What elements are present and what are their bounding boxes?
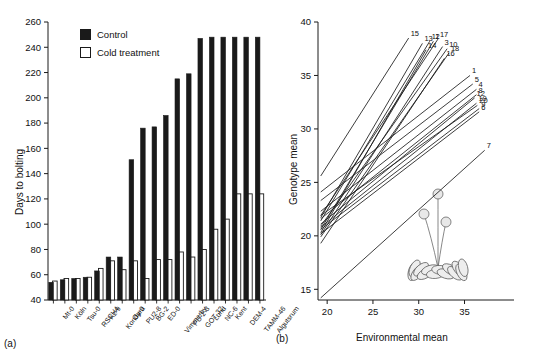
panel-b-x-axis-title: Environmental mean [356,332,448,343]
panel-a-label: (a) [4,338,16,349]
bar-control [95,271,100,300]
panel-b-x-tick: 20 [322,306,333,317]
panel-b-x-tick: 30 [413,306,424,317]
bar-control [244,37,249,300]
reaction-norm-line-label: 14 [428,41,436,50]
panel-b-plot-area: 15202530354020253035 [270,0,536,360]
legend-item-cold-treatment: Cold treatment [80,47,159,58]
panel-b-x-tick: 35 [459,306,470,317]
panel-a-y-tick: 240 [25,42,41,53]
legend-item-control: Control [80,29,128,40]
panel-a-y-tick: 100 [25,219,41,230]
reaction-norm-line-label: 20 [479,96,487,105]
reaction-norm-line [321,95,477,219]
bar-control [209,37,214,300]
legend-label-control: Control [97,29,128,40]
panel-b-y-tick: 35 [300,70,311,81]
bar-control [106,257,111,300]
bar-control [186,74,191,300]
panel-b-y-tick: 20 [300,230,311,241]
reaction-norm-line-label: 15 [411,29,419,38]
panel-b-reaction-norms: Genotype mean Environmental mean 1520253… [270,0,536,360]
bar-control [118,257,123,300]
legend-label-cold-treatment: Cold treatment [97,47,159,58]
panel-a-y-tick: 120 [25,193,41,204]
reaction-norm-line [321,105,478,215]
panel-b-y-axis-title: Genotype mean [288,134,299,205]
panel-b-x-tick: 25 [368,306,379,317]
reaction-norm-line [321,75,470,192]
panel-a-y-tick: 200 [25,92,41,103]
panel-a-y-tick: 40 [30,294,41,305]
bar-control [175,79,180,300]
panel-a-y-tick: 260 [25,16,41,27]
panel-a-y-axis-title: Days to bolting [14,149,25,215]
bar-control [164,116,169,300]
bar-control [232,37,237,300]
bar-control [152,127,157,300]
panel-a-y-tick: 220 [25,67,41,78]
panel-a-y-tick: 60 [30,269,41,280]
bar-control [83,277,88,300]
panel-a-y-tick: 180 [25,117,41,128]
panel-a-bar-chart: Days to bolting Control Cold treatment 4… [0,0,270,360]
bar-control [72,279,77,300]
panel-b-y-tick: 40 [300,16,311,27]
panel-a-y-tick: 160 [25,143,41,154]
figure-root: Days to bolting Control Cold treatment 4… [0,0,536,360]
bar-control [221,37,226,300]
reaction-norm-line [321,103,477,227]
panel-a-y-tick: 140 [25,168,41,179]
reaction-norm-line-label: 18 [451,44,459,53]
panel-b-label: (b) [276,333,288,344]
bar-control [129,160,134,300]
reaction-norm-line-label: 5 [475,75,479,84]
bar-control [60,280,65,300]
legend-swatch-control [80,29,91,40]
reaction-norm-line [321,43,423,217]
panel-b-y-tick: 15 [300,284,311,295]
bar-control [198,38,203,300]
panel-a-y-tick: 80 [30,244,41,255]
panel-b-y-tick: 25 [300,177,311,188]
arabidopsis-plant-illustration [406,189,470,283]
bar-control [49,282,54,300]
reaction-norm-line-label: 7 [487,141,491,150]
reaction-norm-line [321,109,479,230]
legend-swatch-cold-treatment [80,47,91,58]
reaction-norm-line [321,41,430,221]
reaction-norm-line-label: 17 [440,30,448,39]
bar-control [141,128,146,300]
panel-b-y-tick: 30 [300,123,311,134]
bar-control [255,37,260,300]
reaction-norm-line [321,53,449,237]
